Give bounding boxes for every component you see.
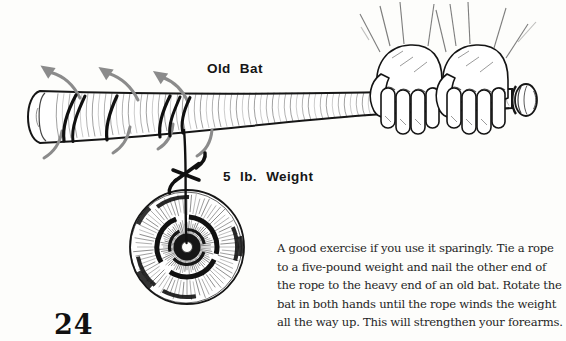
right-finger (492, 88, 505, 128)
page-number: 24 (54, 309, 94, 340)
right-finger (462, 90, 476, 134)
weight-drawing (115, 175, 259, 319)
bat-label: Old Bat (207, 61, 263, 76)
right-finger (447, 88, 461, 128)
left-hand (370, 45, 442, 134)
rotation-arrowhead-icon (37, 60, 56, 79)
caption-line: A good exercise if you use it sparingly.… (277, 239, 563, 258)
left-finger (381, 88, 395, 128)
caption-line: bat in both hands until the rope winds t… (277, 295, 563, 314)
caption-paragraph: A good exercise if you use it sparingly.… (277, 239, 563, 332)
rotation-arrowhead-icon (95, 62, 114, 81)
left-finger (411, 90, 425, 134)
hands-drawing (360, 2, 536, 134)
caption-line: all the way up. This will strengthen you… (277, 313, 563, 332)
right-finger (477, 90, 491, 134)
book-page: Old Bat 5 lb. Weight A good exercise if … (0, 0, 566, 341)
rotation-arrowhead-icon (149, 66, 168, 85)
weight-label: 5 lb. Weight (223, 169, 313, 184)
rope-knot (169, 153, 205, 193)
left-finger (396, 90, 410, 134)
caption-line: the rope to the heavy end of an old bat.… (277, 276, 563, 295)
wrist-sketch-lines (360, 2, 536, 58)
right-hand (436, 45, 508, 134)
caption-line: to a five-pound weight and nail the othe… (277, 258, 563, 277)
bat-knob (512, 84, 537, 116)
